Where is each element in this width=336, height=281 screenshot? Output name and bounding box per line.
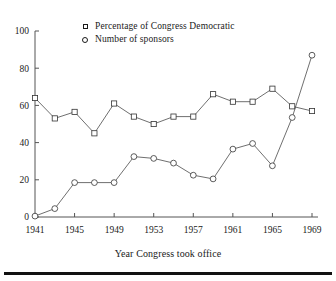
square-data-point [309, 108, 314, 113]
data-series-group [32, 52, 315, 219]
bottom-rule [4, 272, 332, 275]
y-axis: 020406080100 [15, 26, 39, 222]
x-tick-label: 1969 [303, 225, 322, 235]
square-data-point [270, 86, 275, 91]
circle-data-point [32, 213, 38, 219]
square-data-point [250, 99, 255, 104]
circle-data-point [309, 52, 315, 58]
y-tick-label: 60 [20, 101, 30, 111]
series-percentage-democratic [32, 86, 314, 136]
square-data-point [52, 116, 57, 121]
series-number-of-sponsors [32, 52, 315, 219]
square-data-point [230, 99, 235, 104]
circle-data-point [52, 206, 58, 212]
square-data-point [211, 92, 216, 97]
plot-area: 020406080100 194119451949195319571961196… [0, 0, 336, 248]
circle-data-point [270, 163, 276, 169]
square-data-point [191, 114, 196, 119]
circle-data-point [210, 176, 216, 182]
y-tick-label: 0 [24, 212, 29, 222]
square-data-point [72, 109, 77, 114]
circle-data-point [151, 156, 157, 162]
y-tick-label: 20 [20, 175, 30, 185]
chart-figure: Percentage of Congress Democratic Number… [0, 0, 336, 281]
x-axis-title: Year Congress took office [0, 248, 336, 259]
circle-data-point [72, 180, 78, 186]
circle-data-point [289, 115, 295, 121]
circle-data-point [171, 160, 177, 166]
circle-data-point [92, 180, 98, 186]
y-tick-label: 80 [20, 64, 30, 74]
square-data-point [32, 95, 37, 100]
square-data-point [92, 131, 97, 136]
square-data-point [151, 121, 156, 126]
x-tick-label: 1945 [65, 225, 84, 235]
x-tick-label: 1941 [26, 225, 45, 235]
y-tick-label: 40 [20, 138, 30, 148]
square-data-point [290, 104, 295, 109]
square-data-point [131, 114, 136, 119]
square-data-point [112, 101, 117, 106]
x-tick-label: 1965 [263, 225, 282, 235]
x-tick-label: 1957 [184, 225, 203, 235]
circle-data-point [190, 172, 196, 178]
y-tick-label: 100 [15, 26, 30, 36]
circle-data-point [250, 141, 256, 147]
x-axis: 19411945194919531957196119651969 [26, 213, 322, 235]
x-tick-label: 1953 [144, 225, 163, 235]
square-data-point [171, 114, 176, 119]
x-tick-label: 1949 [105, 225, 124, 235]
circle-data-point [131, 154, 137, 160]
circle-data-point [111, 180, 117, 186]
x-tick-label: 1961 [223, 225, 242, 235]
circle-data-point [230, 146, 236, 152]
